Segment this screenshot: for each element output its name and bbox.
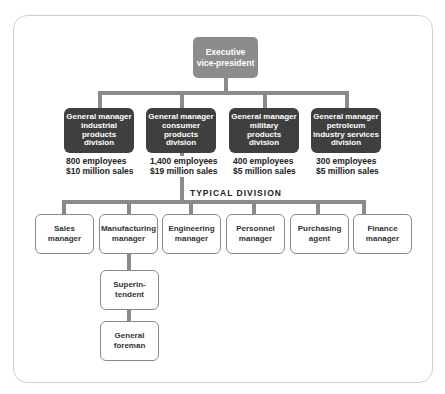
division-military: General manager military products divisi… bbox=[229, 108, 299, 153]
connector bbox=[62, 200, 366, 204]
box-label: Engineering manager bbox=[168, 224, 214, 243]
box-label: Purchasing agent bbox=[298, 224, 342, 243]
employees-count: 400 employees bbox=[233, 156, 296, 166]
division-label: General manager military products divisi… bbox=[231, 113, 296, 149]
purchasing-agent-box: Purchasing agent bbox=[290, 214, 349, 254]
division-petroleum: General manager petroleum industry servi… bbox=[311, 108, 381, 153]
employees-count: 300 employees bbox=[316, 156, 379, 166]
box-label: General foreman bbox=[114, 331, 146, 350]
division-stats: 300 employees$5 million sales bbox=[316, 156, 379, 176]
connector bbox=[180, 177, 184, 202]
connector bbox=[180, 91, 184, 109]
box-label: Sales manager bbox=[48, 224, 81, 243]
employees-count: 1,400 employees bbox=[150, 156, 218, 166]
connector bbox=[98, 91, 102, 109]
division-consumer: General manager consumer products divisi… bbox=[146, 108, 216, 153]
finance-manager-box: Finance manager bbox=[353, 214, 412, 254]
general-foreman-box: General foreman bbox=[100, 321, 159, 361]
sales-figure: $5 million sales bbox=[316, 166, 379, 176]
executive-vp-box: Executive vice-president bbox=[193, 37, 258, 78]
connector bbox=[127, 254, 131, 270]
employees-count: 800 employees bbox=[66, 156, 134, 166]
connector bbox=[98, 91, 349, 95]
connector bbox=[62, 200, 66, 214]
connector bbox=[263, 91, 267, 109]
connector bbox=[362, 200, 366, 214]
box-label: Finance manager bbox=[366, 224, 399, 243]
connector bbox=[316, 200, 320, 214]
connector bbox=[127, 200, 131, 214]
box-label: Personnel manager bbox=[236, 224, 275, 243]
division-stats: 1,400 employees$19 million sales bbox=[150, 156, 218, 176]
division-label: General manager industrial products divi… bbox=[66, 113, 131, 149]
personnel-manager-box: Personnel manager bbox=[226, 214, 285, 254]
superintendent-box: Superin- tendent bbox=[100, 270, 159, 310]
typical-division-label: TYPICAL DIVISION bbox=[190, 188, 282, 198]
executive-vp-label: Executive vice-president bbox=[197, 47, 255, 68]
box-label: Superin- tendent bbox=[113, 280, 145, 299]
division-industrial: General manager industrial products divi… bbox=[64, 108, 134, 153]
division-label: General manager consumer products divisi… bbox=[148, 113, 213, 149]
division-stats: 800 employees$10 million sales bbox=[66, 156, 134, 176]
sales-figure: $5 million sales bbox=[233, 166, 296, 176]
connector bbox=[252, 200, 256, 214]
division-stats: 400 employees$5 million sales bbox=[233, 156, 296, 176]
engineering-manager-box: Engineering manager bbox=[162, 214, 221, 254]
box-label: Manufacturing manager bbox=[101, 224, 156, 243]
connector bbox=[345, 91, 349, 109]
manufacturing-manager-box: Manufacturing manager bbox=[99, 214, 158, 254]
sales-figure: $19 million sales bbox=[150, 166, 218, 176]
sales-figure: $10 million sales bbox=[66, 166, 134, 176]
division-label: General manager petroleum industry servi… bbox=[313, 113, 379, 149]
sales-manager-box: Sales manager bbox=[35, 214, 94, 254]
connector bbox=[189, 200, 193, 214]
